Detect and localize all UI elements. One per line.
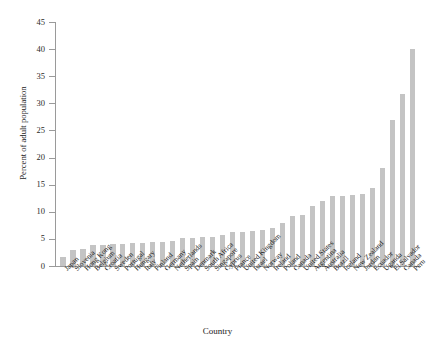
bar <box>410 49 415 266</box>
bar <box>400 94 405 266</box>
y-axis-tick-label: 20 <box>17 153 45 162</box>
y-axis-tick-label: 30 <box>17 99 45 108</box>
y-axis-tick-label: 10 <box>17 207 45 216</box>
y-axis-tick-label: 15 <box>17 180 45 189</box>
bar-chart-figure: Percent of adult population 051015202530… <box>0 0 435 348</box>
bar <box>390 120 395 266</box>
bar <box>380 168 385 266</box>
x-axis-tick-labels: JapanSloveniaHong KongBelgiumCroatiaSwed… <box>56 267 421 327</box>
y-axis-tick-label: 35 <box>17 72 45 81</box>
plot-area <box>56 22 421 266</box>
y-axis: Percent of adult population 051015202530… <box>0 0 55 348</box>
x-axis-title: Country <box>0 326 435 336</box>
y-axis-tick-label: 40 <box>17 45 45 54</box>
y-axis-tick-label: 0 <box>17 262 45 271</box>
y-axis-tick-label: 25 <box>17 126 45 135</box>
y-axis-tick-label: 5 <box>17 234 45 243</box>
y-axis-tick-label: 45 <box>17 18 45 27</box>
